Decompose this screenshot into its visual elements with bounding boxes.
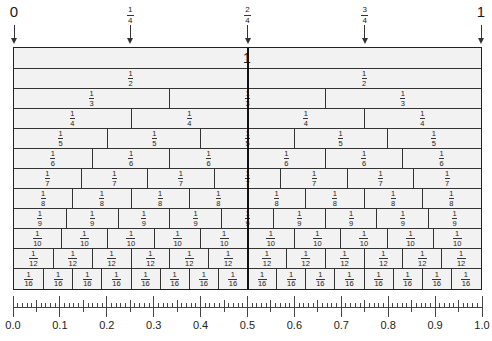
fraction-cell: 18 xyxy=(247,189,305,208)
fraction-cell: 18 xyxy=(189,189,247,208)
denominator: 8 xyxy=(449,200,454,207)
fraction-cell: 112 xyxy=(92,249,131,268)
numerator: 1 xyxy=(158,190,163,197)
ruler-tick xyxy=(149,303,150,308)
unit-fraction: 116 xyxy=(141,271,150,288)
ruler-tick xyxy=(355,303,356,308)
denominator: 3 xyxy=(89,100,94,107)
fraction-cell: 116 xyxy=(247,269,276,289)
ruler-label: 0.1 xyxy=(45,319,75,331)
unit-fraction: 116 xyxy=(461,271,470,288)
ruler-tick xyxy=(45,303,46,308)
fraction-cell: 112 xyxy=(169,249,208,268)
numerator: 1 xyxy=(126,230,135,237)
ruler-tick xyxy=(50,303,51,308)
numerator: 1 xyxy=(220,230,229,237)
unit-fraction: 116 xyxy=(83,271,92,288)
unit-fraction: 110 xyxy=(173,230,182,247)
ruler-tick xyxy=(374,303,375,308)
ruler-tick xyxy=(341,296,342,317)
ruler-tick xyxy=(209,303,210,308)
numerator: 1 xyxy=(70,110,75,117)
ruler-tick xyxy=(406,303,407,308)
ruler-tick xyxy=(92,303,93,308)
arrow-shaft xyxy=(14,25,15,39)
denominator: 16 xyxy=(403,280,412,287)
unit-fraction: 13 xyxy=(89,90,94,107)
numerator: 1 xyxy=(453,230,462,237)
unit-fraction: 116 xyxy=(54,271,63,288)
denominator: 12 xyxy=(29,260,38,267)
denominator: 8 xyxy=(332,200,337,207)
marker-denominator: 4 xyxy=(345,17,385,25)
marker-numerator: 1 xyxy=(110,6,150,14)
fraction-cell: 14 xyxy=(14,109,131,128)
unit-fraction: 16 xyxy=(128,150,133,167)
ruler-tick xyxy=(144,303,145,308)
unit-fraction: 18 xyxy=(41,190,46,207)
numerator: 1 xyxy=(312,170,317,177)
unit-fraction: 16 xyxy=(284,150,289,167)
unit-fraction: 112 xyxy=(68,250,77,267)
ruler-tick xyxy=(252,303,253,308)
numerator: 1 xyxy=(50,150,55,157)
numerator: 1 xyxy=(99,190,104,197)
unit-fraction: 112 xyxy=(340,250,349,267)
numerator: 1 xyxy=(378,170,383,177)
marker-label: 1 xyxy=(461,4,492,20)
marker-fraction: 24 xyxy=(228,6,268,25)
fraction-cell: 116 xyxy=(334,269,363,289)
fraction-cell: 116 xyxy=(43,269,72,289)
denominator: 5 xyxy=(338,140,343,147)
ruler-tick xyxy=(205,303,206,308)
ruler-tick xyxy=(449,303,450,308)
fraction-cell: 112 xyxy=(53,249,92,268)
denominator: 16 xyxy=(374,280,383,287)
ruler-label: 0.3 xyxy=(139,319,169,331)
fraction-cell: 112 xyxy=(364,249,403,268)
denominator: 12 xyxy=(107,260,116,267)
numerator: 1 xyxy=(359,230,368,237)
denominator: 10 xyxy=(406,240,415,247)
ruler-tick xyxy=(345,303,346,308)
unit-fraction: 19 xyxy=(349,210,354,227)
fraction-wall-grid: 1161161161161161161161161161161161161161… xyxy=(13,47,482,290)
unit-fraction: 110 xyxy=(359,230,368,247)
ruler-tick xyxy=(439,303,440,308)
ruler-tick xyxy=(416,303,417,308)
denominator: 8 xyxy=(41,200,46,207)
unit-fraction: 18 xyxy=(158,190,163,207)
fraction-cell: 110 xyxy=(14,229,61,248)
unit-fraction: 116 xyxy=(316,271,325,288)
numerator: 1 xyxy=(128,150,133,157)
fraction-cell: 16 xyxy=(402,149,480,168)
unit-fraction: 110 xyxy=(80,230,89,247)
denominator: 10 xyxy=(359,240,368,247)
fraction-cell: 116 xyxy=(422,269,451,289)
denominator: 16 xyxy=(112,280,121,287)
ruler-label: 1.0 xyxy=(467,319,492,331)
unit-fraction: 116 xyxy=(170,271,179,288)
numerator: 1 xyxy=(284,150,289,157)
unit-fraction: 116 xyxy=(112,271,121,288)
denominator: 12 xyxy=(418,260,427,267)
fraction-cell: 16 xyxy=(247,149,325,168)
fraction-cell: 116 xyxy=(72,269,101,289)
ruler-tick xyxy=(139,303,140,308)
fraction-cell: 19 xyxy=(376,209,428,228)
numerator: 1 xyxy=(187,110,192,117)
ruler-tick xyxy=(280,303,281,308)
unit-fraction: 17 xyxy=(312,170,317,187)
numerator: 1 xyxy=(313,230,322,237)
fraction-cell: 16 xyxy=(92,149,170,168)
arrow-down-icon xyxy=(478,38,484,44)
unit-fraction: 19 xyxy=(193,210,198,227)
numerator: 1 xyxy=(361,150,366,157)
unit-fraction: 116 xyxy=(24,271,33,288)
ruler-tick xyxy=(172,303,173,308)
fraction-cell: 116 xyxy=(364,269,393,289)
fraction-cell: 112 xyxy=(131,249,170,268)
numerator: 1 xyxy=(303,110,308,117)
unit-fraction: 110 xyxy=(220,230,229,247)
ruler-tick xyxy=(482,296,483,317)
